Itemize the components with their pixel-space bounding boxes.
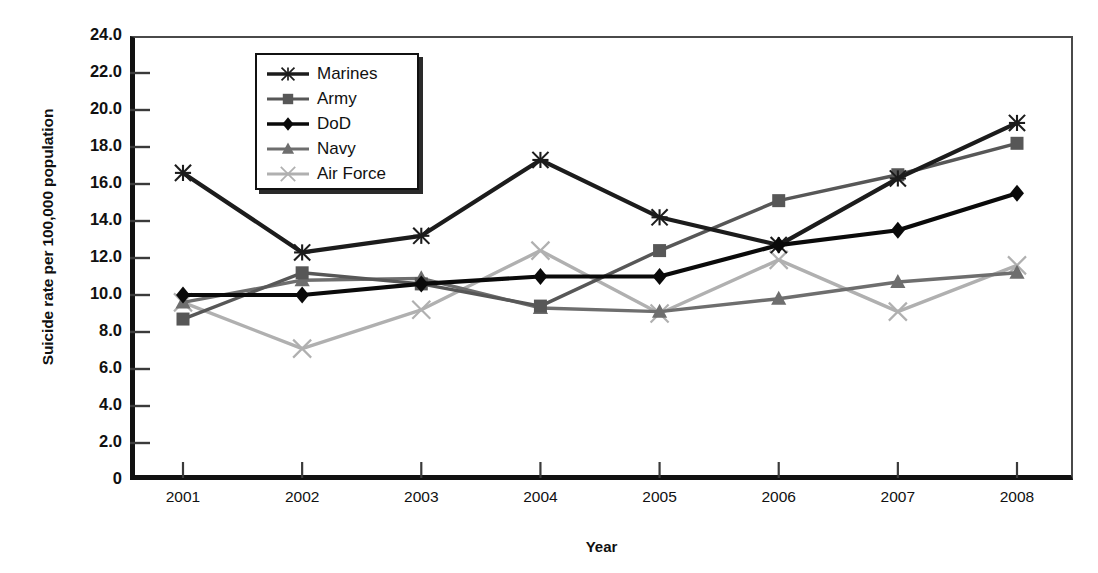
y-tick-label: 6.0 — [0, 358, 122, 377]
legend-item-navy[interactable]: Navy — [265, 136, 409, 161]
y-tick-label: 20.0 — [0, 99, 122, 118]
x-axis-title: Year — [130, 538, 1073, 555]
legend-label: Air Force — [317, 164, 386, 184]
legend-swatch-diamond-icon — [265, 114, 311, 134]
y-tick-label: 10.0 — [0, 284, 122, 303]
legend-label: Army — [317, 89, 357, 109]
legend-swatch-cross-icon — [265, 164, 311, 184]
y-tick-label: 14.0 — [0, 210, 122, 229]
chart-figure: Suicide rate per 100,000 population Year… — [0, 0, 1098, 573]
x-tick-label: 2008 — [972, 488, 1062, 506]
y-tick-label: 2.0 — [0, 432, 122, 451]
legend-swatch-asterisk-icon — [265, 64, 311, 84]
marker-square — [283, 93, 293, 103]
y-tick-label: 22.0 — [0, 62, 122, 81]
y-tick-label: 0 — [0, 469, 122, 488]
legend-item-army[interactable]: Army — [265, 86, 409, 111]
y-tick-label: 4.0 — [0, 395, 122, 414]
x-tick-label: 2002 — [257, 488, 347, 506]
legend-label: Marines — [317, 64, 377, 84]
legend-swatch-square-icon — [265, 89, 311, 109]
y-tick-label: 18.0 — [0, 136, 122, 155]
marker-asterisk — [282, 67, 295, 80]
x-tick-label: 2007 — [853, 488, 943, 506]
legend-label: DoD — [317, 114, 351, 134]
x-tick-label: 2006 — [734, 488, 824, 506]
x-tick-label: 2001 — [138, 488, 228, 506]
legend-item-dod[interactable]: DoD — [265, 111, 409, 136]
y-tick-label: 24.0 — [0, 25, 122, 44]
x-tick-label: 2003 — [376, 488, 466, 506]
y-tick-label: 8.0 — [0, 321, 122, 340]
marker-diamond — [282, 117, 293, 131]
x-tick-label: 2004 — [495, 488, 585, 506]
legend-item-marines[interactable]: Marines — [265, 61, 409, 86]
y-tick-label: 12.0 — [0, 247, 122, 266]
chart-legend: MarinesArmyDoDNavyAir Force — [255, 53, 419, 190]
legend-item-air-force[interactable]: Air Force — [265, 161, 409, 186]
x-tick-label: 2005 — [615, 488, 705, 506]
y-axis-title: Suicide rate per 100,000 population — [39, 17, 57, 457]
y-tick-label: 16.0 — [0, 173, 122, 192]
legend-label: Navy — [317, 139, 356, 159]
legend-swatch-triangle-icon — [265, 139, 311, 159]
